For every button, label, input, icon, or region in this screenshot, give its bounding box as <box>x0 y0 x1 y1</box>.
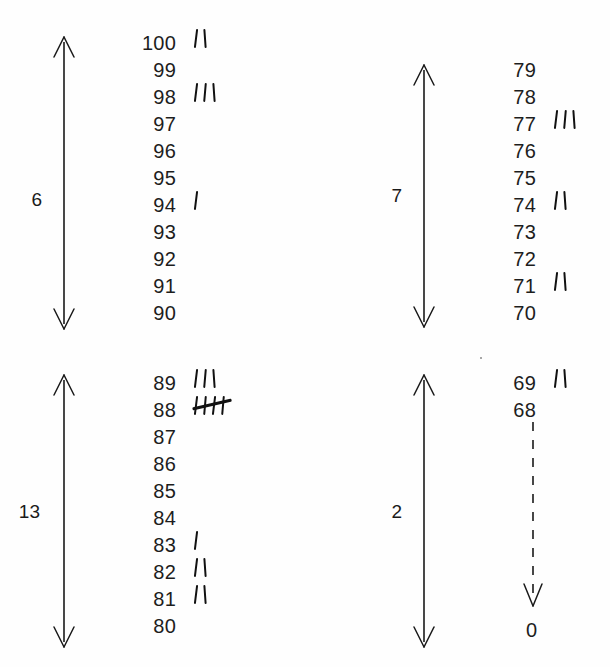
tally-marks <box>194 366 264 390</box>
tally-stroke <box>563 272 567 291</box>
tally-marks <box>194 26 264 50</box>
tally-row: 99 <box>136 53 264 77</box>
tally-row-value: 70 <box>496 301 536 325</box>
double-arrow-icon <box>400 58 460 338</box>
tally-marks <box>554 393 610 417</box>
tally-marks <box>194 53 264 77</box>
tally-row-value: 95 <box>136 166 176 190</box>
tally-stroke <box>203 83 207 102</box>
tally-stroke <box>563 369 567 388</box>
tally-row: 71 <box>496 269 610 293</box>
tally-marks <box>194 474 264 498</box>
tally-stroke <box>203 29 207 48</box>
tally-row-value: 80 <box>136 614 176 638</box>
tally-stroke <box>221 396 225 415</box>
tally-row-value: 79 <box>496 58 536 82</box>
tally-row-value: 72 <box>496 247 536 271</box>
tally-stroke <box>572 110 576 129</box>
tally-stroke <box>212 83 216 102</box>
tally-row: 95 <box>136 161 264 185</box>
tally-row-value: 76 <box>496 139 536 163</box>
tally-row: 83 <box>136 528 264 552</box>
tally-row: 82 <box>136 555 264 579</box>
tally-row-value: 98 <box>136 85 176 109</box>
bracket-7: 7 <box>400 58 490 338</box>
tally-stroke <box>203 558 207 577</box>
bracket-6: 6 <box>40 30 130 340</box>
tally-row: 91 <box>136 269 264 293</box>
tally-row-value: 94 <box>136 193 176 217</box>
tally-stroke <box>212 369 216 388</box>
tally-row-value: 90 <box>136 301 176 325</box>
tally-stroke <box>554 191 559 210</box>
tally-row: 75 <box>496 161 610 185</box>
tally-row: 96 <box>136 134 264 158</box>
tally-row: 100 <box>136 26 264 50</box>
tally-row: 70 <box>496 296 610 320</box>
tally-stroke <box>203 585 207 604</box>
tally-row-value: 74 <box>496 193 536 217</box>
tally-row-value: 100 <box>136 31 176 55</box>
tally-marks <box>554 215 610 239</box>
tally-row: 93 <box>136 215 264 239</box>
tally-row: 73 <box>496 215 610 239</box>
tally-marks <box>194 188 264 212</box>
tally-row: 92 <box>136 242 264 266</box>
tally-marks <box>554 161 610 185</box>
tally-row: 90 <box>136 296 264 320</box>
tally-marks <box>194 582 264 606</box>
tally-row: 89 <box>136 366 264 390</box>
tally-stroke <box>563 110 567 129</box>
bracket-label-6: 6 <box>18 190 42 209</box>
tally-row-value: 91 <box>136 274 176 298</box>
tally-marks <box>194 134 264 158</box>
tally-group-90-100: 6 10099989796959493929190 <box>0 0 305 340</box>
tally-row-value: 84 <box>136 506 176 530</box>
tally-row-value: 71 <box>496 274 536 298</box>
tally-marks <box>194 107 264 131</box>
tally-row-value: 99 <box>136 58 176 82</box>
tally-row: 80 <box>136 609 264 633</box>
tally-row-value: 85 <box>136 479 176 503</box>
tally-group-80-89: 13 89888786858483828180 <box>0 340 305 667</box>
paper-speck <box>480 357 482 359</box>
bracket-2: 2 <box>400 368 490 658</box>
tally-marks <box>554 80 610 104</box>
tally-row-value: 86 <box>136 452 176 476</box>
continuation-arrow <box>508 418 558 622</box>
double-arrow-icon <box>40 30 100 340</box>
tally-stroke <box>563 191 567 210</box>
tally-marks <box>194 420 264 444</box>
tally-row: 94 <box>136 188 264 212</box>
tally-row: 76 <box>496 134 610 158</box>
tally-row: 77 <box>496 107 610 131</box>
tally-marks <box>554 242 610 266</box>
tally-marks <box>194 269 264 293</box>
tally-row: 88 <box>136 393 264 417</box>
tally-stroke <box>194 531 199 550</box>
tally-group-70-79: 7 79787776757473727170 <box>380 0 610 340</box>
bracket-label-7: 7 <box>378 186 402 205</box>
tally-marks <box>194 296 264 320</box>
tally-row-value: 89 <box>136 371 176 395</box>
tally-stroke <box>554 110 559 129</box>
tally-stroke <box>194 83 199 102</box>
tally-row: 79 <box>496 53 610 77</box>
tally-row-value: 69 <box>496 371 536 395</box>
tally-row-value: 83 <box>136 533 176 557</box>
bracket-label-13: 13 <box>6 502 40 521</box>
tally-stroke <box>194 191 199 210</box>
tally-marks <box>194 215 264 239</box>
tally-stroke <box>554 272 559 291</box>
tally-marks <box>194 161 264 185</box>
tally-row-value: 97 <box>136 112 176 136</box>
tally-row-value: 92 <box>136 247 176 271</box>
tally-row: 69 <box>496 366 610 390</box>
tally-row: 86 <box>136 447 264 471</box>
double-arrow-icon <box>40 368 100 658</box>
tally-row-value: 77 <box>496 112 536 136</box>
tally-stroke <box>194 29 199 48</box>
tally-marks <box>194 501 264 525</box>
tally-row: 85 <box>136 474 264 498</box>
tally-row: 74 <box>496 188 610 212</box>
